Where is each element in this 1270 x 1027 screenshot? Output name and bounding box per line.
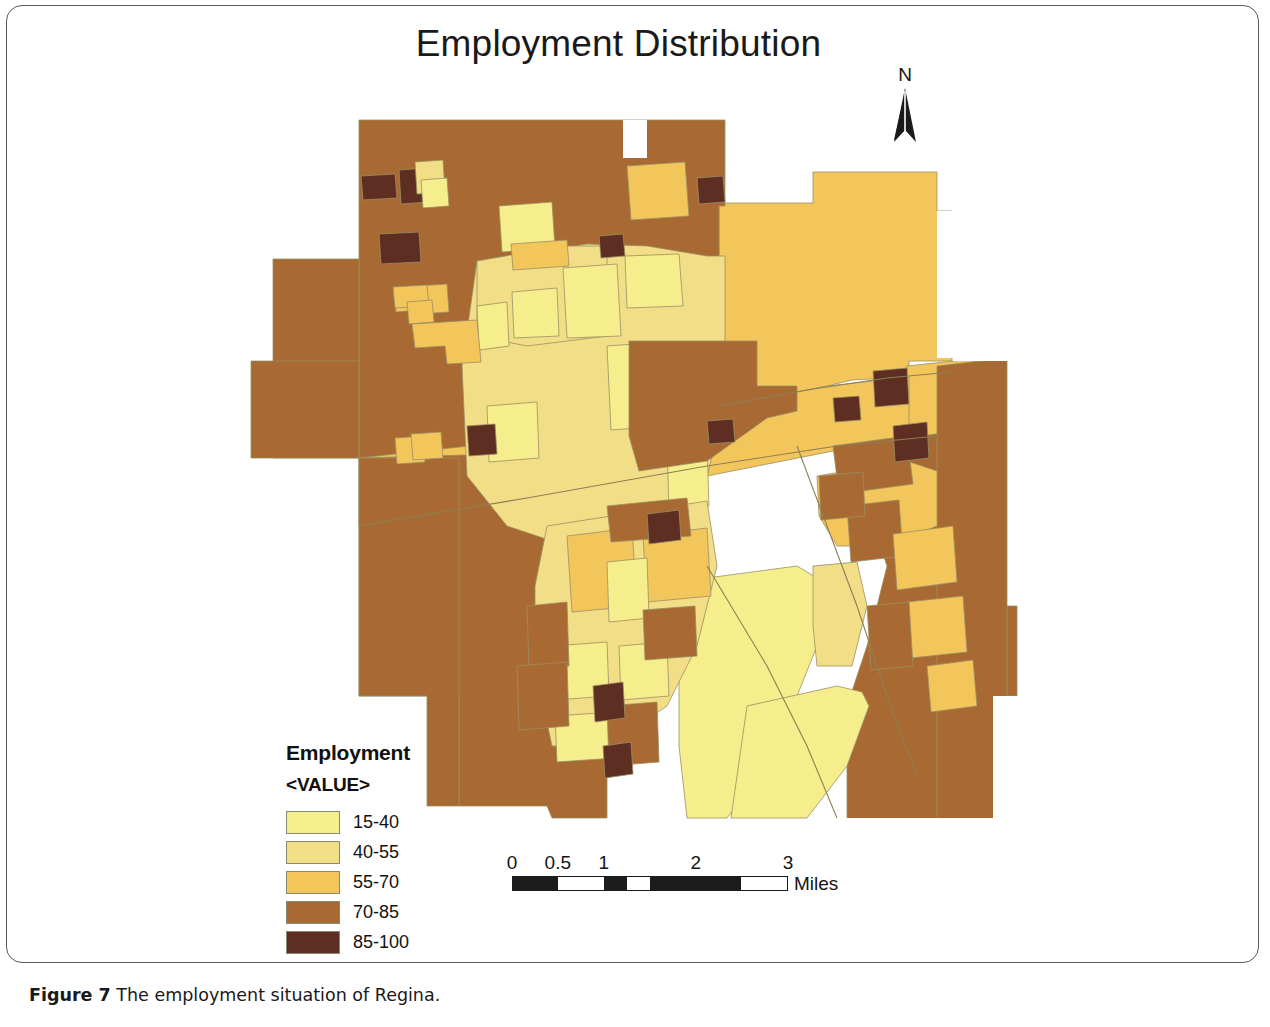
map-region-nc-pale-b <box>511 240 569 270</box>
map-region-core-pale-c <box>625 254 683 308</box>
map-region-nc-pale-c <box>627 162 689 220</box>
legend-label: 55-70 <box>353 872 399 893</box>
scale-bar-tick: 0.5 <box>545 852 571 874</box>
scale-bar: 00.5123 Miles <box>512 852 842 893</box>
legend-swatch <box>286 901 340 924</box>
map-cutout-top-left <box>207 106 359 120</box>
scale-bar-segment <box>627 877 650 890</box>
map-region-midsouth-brown-c <box>643 606 697 660</box>
map-region-core-pale-b <box>512 288 559 338</box>
map-region-midsouth-brown-b <box>527 602 569 670</box>
scale-bar-segment <box>558 877 604 890</box>
legend-item: 55-70 <box>286 867 410 897</box>
map-cutout-nw-corner <box>207 106 273 259</box>
figure-caption-text: The employment situation of Regina. <box>116 985 440 1005</box>
legend-subtitle: <VALUE> <box>286 774 410 796</box>
map-cutout-south-right <box>837 818 1017 876</box>
legend-rows: 15-4040-5555-7070-8585-100 <box>286 807 410 957</box>
legend-item: 70-85 <box>286 897 410 927</box>
map-region-se-golden-a <box>893 526 957 590</box>
map-region-dark-d <box>697 176 725 204</box>
scale-bar-segments <box>512 876 788 891</box>
map-region-dark-f <box>599 234 625 258</box>
map-region-dark-i <box>593 682 625 722</box>
map-region-dark-j <box>873 368 909 407</box>
map-region-dark-h <box>647 510 681 544</box>
map-region-south-pale-east <box>813 562 867 666</box>
choropleth-map <box>7 6 1259 963</box>
scale-bar-tick: 0 <box>507 852 518 874</box>
scale-bar-ticks: 00.5123 <box>512 852 842 874</box>
scale-bar-segment <box>650 877 741 890</box>
figure-number: Figure 7 <box>29 985 111 1005</box>
scale-bar-segment <box>741 877 787 890</box>
legend-swatch <box>286 931 340 954</box>
map-region-se-brown-d <box>819 472 865 520</box>
map-notch-north <box>623 120 647 158</box>
legend-title: Employment <box>286 741 410 765</box>
scale-bar-graphic: Miles <box>512 874 842 893</box>
scale-bar-tick: 2 <box>691 852 702 874</box>
legend: Employment <VALUE> 15-4040-5555-7070-858… <box>286 741 410 957</box>
map-region-se-golden-b <box>907 596 967 658</box>
map-region-dark-m <box>707 419 735 444</box>
legend-item: 40-55 <box>286 837 410 867</box>
legend-label: 85-100 <box>353 932 409 953</box>
scale-bar-tick: 3 <box>783 852 794 874</box>
scale-bar-unit-label: Miles <box>794 874 838 893</box>
map-region-nw-golden-d <box>407 300 434 324</box>
map-region-dark-k <box>893 422 929 462</box>
map-region-dark-n <box>603 742 633 778</box>
legend-swatch <box>286 871 340 894</box>
legend-label: 70-85 <box>353 902 399 923</box>
legend-swatch <box>286 811 340 834</box>
scale-bar-tick: 1 <box>599 852 610 874</box>
legend-swatch <box>286 841 340 864</box>
figure-frame: Employment Distribution N <box>6 5 1259 963</box>
figure-caption: Figure 7 The employment situation of Reg… <box>29 985 440 1005</box>
map-region-se-golden-c <box>927 660 977 712</box>
map-region-dark-c <box>379 232 421 264</box>
map-cutout-east-upper <box>937 211 1017 358</box>
map-region-core-pale-a <box>563 264 621 338</box>
legend-item: 85-100 <box>286 927 410 957</box>
map-region-dark-l <box>833 396 861 422</box>
map-region-dark-b <box>361 174 397 200</box>
map-region-se-brown-c <box>867 602 913 670</box>
legend-label: 15-40 <box>353 812 399 833</box>
scale-bar-segment <box>604 877 627 890</box>
legend-item: 15-40 <box>286 807 410 837</box>
map-cutout-west <box>207 458 251 706</box>
map-region-dark-g <box>467 424 497 456</box>
scale-bar-segment <box>513 877 558 890</box>
map-region-midsouth-brown-e <box>517 662 569 730</box>
map-region-nw-pale-b <box>421 178 449 208</box>
legend-label: 40-55 <box>353 842 399 863</box>
map-region-nw-golden-f <box>411 432 443 460</box>
map-region-west-step <box>251 361 359 458</box>
map-region-core-pale-g <box>477 302 509 350</box>
